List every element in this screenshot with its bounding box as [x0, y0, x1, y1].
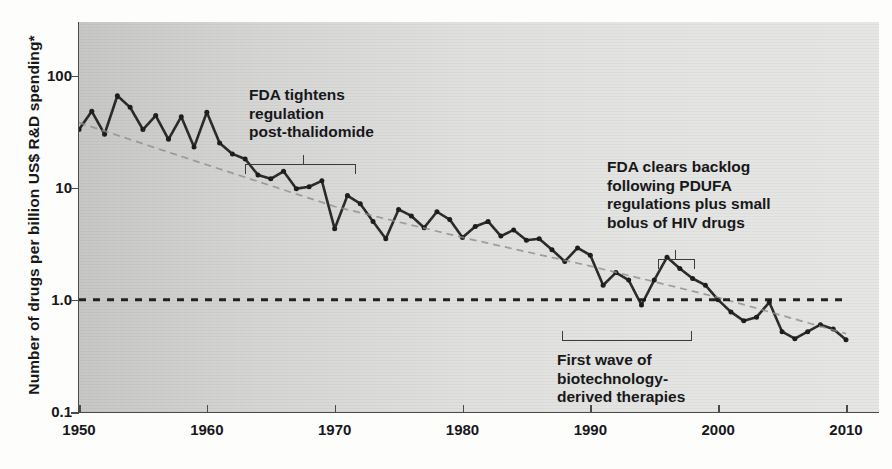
data-point: [243, 157, 248, 162]
data-point: [486, 219, 491, 224]
x-tick-mark: [718, 405, 720, 413]
x-tick-mark: [463, 405, 465, 413]
data-point: [639, 302, 644, 307]
x-tick-mark: [79, 405, 81, 413]
data-point: [588, 253, 593, 258]
data-point: [652, 278, 657, 283]
data-point: [754, 315, 759, 320]
data-point: [371, 219, 376, 224]
data-point: [434, 209, 439, 214]
data-point: [153, 113, 158, 118]
data-point: [792, 336, 797, 341]
x-tick-label-2010: 2010: [810, 421, 882, 438]
x-tick-label-1980: 1980: [427, 421, 499, 438]
bracket-biotech-wave: [562, 331, 692, 341]
annotation-biotech-wave: First wave of biotechnology- derived the…: [557, 351, 685, 407]
y-tick-mark: [71, 188, 79, 190]
x-tick-mark: [207, 405, 209, 413]
x-tick-mark: [846, 405, 848, 413]
data-point: [473, 224, 478, 229]
data-point: [128, 105, 133, 110]
data-point: [319, 178, 324, 183]
annotation-fda-backlog: FDA clears backlog following PDUFA regul…: [607, 158, 771, 232]
y-tick-label-0-1: 0.1: [12, 404, 72, 419]
data-point: [741, 318, 746, 323]
data-point: [307, 184, 312, 189]
bracket-fda-backlog: [658, 259, 695, 269]
data-point: [268, 176, 273, 181]
y-tick-mark: [71, 76, 79, 78]
x-tick-label-1960: 1960: [171, 421, 243, 438]
data-point: [396, 207, 401, 212]
data-point: [358, 201, 363, 206]
data-point: [728, 309, 733, 314]
data-point: [332, 226, 337, 231]
data-point: [549, 247, 554, 252]
y-tick-mark: [71, 412, 79, 414]
data-point: [780, 329, 785, 334]
x-tick-label-1950: 1950: [43, 421, 115, 438]
data-point: [601, 283, 606, 288]
y-tick-label-10: 10: [12, 180, 72, 195]
data-point: [537, 236, 542, 241]
data-point: [204, 110, 209, 115]
chart-figure: Number of drugs per billion US$ R&D spen…: [0, 0, 892, 469]
data-point: [89, 109, 94, 114]
data-point: [498, 234, 503, 239]
data-point: [805, 329, 810, 334]
data-point: [409, 213, 414, 218]
x-tick-label-1990: 1990: [554, 421, 626, 438]
data-point: [140, 127, 145, 132]
bracket-stem-fda-tightens: [303, 155, 305, 165]
data-point: [524, 238, 529, 243]
x-tick-mark: [335, 405, 337, 413]
data-point: [690, 276, 695, 281]
data-point: [294, 186, 299, 191]
data-point: [626, 278, 631, 283]
data-point: [447, 217, 452, 222]
data-point: [703, 283, 708, 288]
data-point: [166, 137, 171, 142]
y-tick-mark: [71, 300, 79, 302]
data-point: [217, 141, 222, 146]
data-point: [511, 227, 516, 232]
data-point: [383, 236, 388, 241]
x-tick-label-2000: 2000: [682, 421, 754, 438]
data-point: [179, 114, 184, 119]
y-axis-tick-labels: 100101.00.1: [10, 0, 72, 469]
data-point: [844, 337, 849, 342]
x-tick-mark: [590, 405, 592, 413]
data-point: [345, 193, 350, 198]
data-point: [230, 151, 235, 156]
data-point: [575, 245, 580, 250]
annotation-fda-tightens: FDA tightens regulation post-thalidomide: [249, 86, 374, 142]
y-tick-label-1-0: 1.0: [12, 292, 72, 307]
x-tick-label-1970: 1970: [299, 421, 371, 438]
data-point: [192, 145, 197, 150]
data-point: [115, 93, 120, 98]
bracket-fda-tightens: [245, 164, 356, 174]
bracket-stem-fda-backlog: [675, 250, 677, 260]
y-tick-label-100: 100: [12, 68, 72, 83]
